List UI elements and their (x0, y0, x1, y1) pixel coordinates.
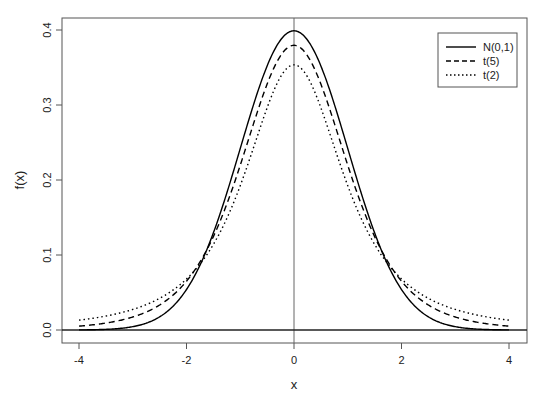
legend-label: t(5) (483, 55, 500, 67)
x-tick-label: -4 (74, 354, 84, 366)
x-axis: -4-2024 (74, 343, 512, 366)
legend: N(0,1)t(5)t(2) (438, 33, 517, 87)
y-tick-label: 0.0 (41, 322, 53, 337)
y-axis: 0.00.10.20.30.4 (41, 22, 62, 337)
x-tick-label: 4 (506, 354, 512, 366)
x-tick-label: -2 (182, 354, 192, 366)
x-tick-label: 0 (291, 354, 297, 366)
x-axis-title: x (291, 377, 298, 392)
y-tick-label: 0.1 (41, 247, 53, 262)
y-axis-title: f(x) (12, 171, 27, 190)
x-tick-label: 2 (398, 354, 404, 366)
y-tick-label: 0.3 (41, 97, 53, 112)
density-chart: -4-2024 0.00.10.20.30.4 x f(x) N(0,1)t(5… (0, 0, 544, 404)
y-tick-label: 0.4 (41, 22, 53, 37)
legend-label: t(2) (483, 69, 500, 81)
legend-label: N(0,1) (483, 41, 514, 53)
y-tick-label: 0.2 (41, 172, 53, 187)
